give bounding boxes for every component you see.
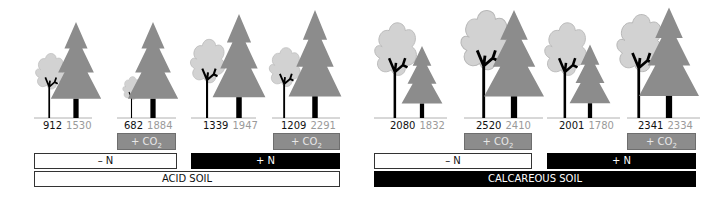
broadleaf-value: 1339 — [203, 120, 228, 131]
broadleaf-value: 2001 — [559, 120, 584, 131]
broadleaf-value: 912 — [43, 120, 62, 131]
pair-calc-minusN-co2 — [461, 10, 544, 118]
conifer-value: 1832 — [419, 120, 444, 131]
conifer-value: 1947 — [232, 120, 257, 131]
pair-acid-minusN-co2 — [117, 22, 178, 118]
broadleaf-value: 2341 — [638, 120, 663, 131]
conifer-value: 1530 — [66, 120, 91, 131]
conifer-value: 2291 — [310, 120, 335, 131]
values-acid-plusN-ambient: 13391947 — [203, 120, 258, 131]
broadleaf-value: 682 — [124, 120, 143, 131]
conifer-value: 2410 — [505, 120, 530, 131]
values-calc-minusN-co2: 25202410 — [476, 120, 531, 131]
values-calc-plusN-ambient: 20011780 — [559, 120, 614, 131]
minus-n-bar-acid: – N — [34, 153, 177, 169]
minus-n-bar-calc: – N — [374, 153, 532, 169]
plus-n-bar-calc: + N — [547, 153, 696, 169]
calcareous-soil-bar: CALCAREOUS SOIL — [374, 171, 696, 187]
values-acid-minusN-ambient: 9121530 — [43, 120, 92, 131]
pair-calc-plusN-ambient — [545, 23, 620, 118]
co2-label-acid-minusN: + CO2 — [117, 133, 176, 150]
pair-acid-minusN-ambient — [34, 22, 101, 118]
broadleaf-value: 2520 — [476, 120, 501, 131]
co2-label-calc-plusN: + CO2 — [627, 133, 696, 150]
co2-label-acid-plusN: + CO2 — [273, 133, 340, 150]
conifer-value: 1884 — [147, 120, 172, 131]
values-acid-minusN-co2: 6821884 — [124, 120, 173, 131]
conifer-value: 1780 — [588, 120, 613, 131]
co2-label-calc-minusN: + CO2 — [464, 133, 532, 150]
acid-soil-bar: ACID SOIL — [34, 171, 340, 187]
broadleaf-value: 2080 — [390, 120, 415, 131]
pair-calc-minusN-ambient — [374, 23, 447, 118]
pair-calc-plusN-co2 — [617, 8, 700, 118]
values-acid-plusN-co2: 12092291 — [281, 120, 336, 131]
values-calc-plusN-co2: 23412334 — [638, 120, 693, 131]
pair-acid-plusN-ambient — [190, 14, 265, 118]
pair-acid-plusN-co2 — [269, 10, 341, 118]
broadleaf-value: 1209 — [281, 120, 306, 131]
plus-n-bar-acid: + N — [191, 153, 340, 169]
conifer-value: 2334 — [667, 120, 692, 131]
values-calc-minusN-ambient: 20801832 — [390, 120, 445, 131]
